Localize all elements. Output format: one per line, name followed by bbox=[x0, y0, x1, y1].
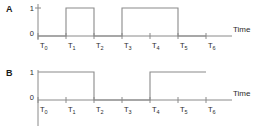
signal-a-ticklabel-t6: T6 bbox=[208, 41, 216, 50]
signal-a-waveform bbox=[38, 8, 206, 36]
signal-b-ticklabel-t5: T5 bbox=[180, 105, 188, 114]
signal-b-ticklabel-t2: T2 bbox=[96, 105, 104, 114]
signal-a-ticklabel-t1: T1 bbox=[68, 41, 76, 50]
signal-a-ticklabel-t2: T2 bbox=[96, 41, 104, 50]
signal-b-waveform bbox=[38, 72, 206, 100]
signal-a-ticklabel-t4: T4 bbox=[152, 41, 160, 50]
signal-b-ticklabel-t4: T4 bbox=[152, 105, 160, 114]
signal-a-ticklabel-t0: T0 bbox=[40, 41, 48, 50]
signal-b-plot bbox=[0, 68, 269, 136]
signal-b-ticklabel-t6: T6 bbox=[208, 105, 216, 114]
signal-a-plot bbox=[0, 0, 269, 68]
timing-diagram: A 1 0 Time T0 T1 T2 T3 T4 T5 T6 B 1 0 Ti… bbox=[0, 0, 269, 136]
signal-a-ticklabel-t3: T3 bbox=[124, 41, 132, 50]
signal-b-ticklabel-t0: T0 bbox=[40, 105, 48, 114]
signal-b-ticklabel-t3: T3 bbox=[124, 105, 132, 114]
signal-b-ticklabel-t1: T1 bbox=[68, 105, 76, 114]
signal-a-ticklabel-t5: T5 bbox=[180, 41, 188, 50]
